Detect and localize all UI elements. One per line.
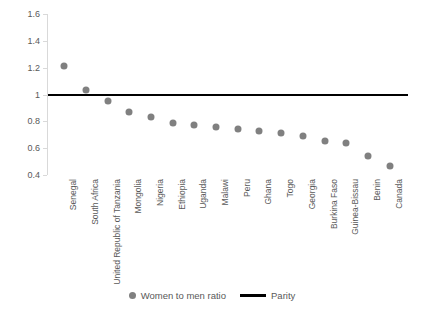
- data-point: [234, 125, 241, 132]
- data-point: [364, 153, 371, 160]
- data-point: [278, 129, 285, 136]
- legend-item-women-to-men-ratio: Women to men ratio: [129, 290, 226, 301]
- x-axis-category-label: Canada: [394, 179, 404, 209]
- y-axis-tick-mark: [43, 95, 47, 96]
- x-axis-category-label: Malawi: [220, 179, 230, 205]
- chart-container: 0.40.60.811.21.41.6 SenegalSouth AfricaU…: [0, 0, 424, 317]
- data-point: [126, 108, 133, 115]
- legend-label-women-to-men-ratio: Women to men ratio: [141, 290, 226, 301]
- x-axis-category-label: Ghana: [263, 179, 273, 205]
- y-axis-tick-mark: [43, 148, 47, 149]
- data-point: [213, 123, 220, 130]
- x-axis-category-label: Togo: [285, 179, 295, 197]
- y-axis-tick-label: 1.6: [0, 9, 40, 19]
- legend-item-parity: Parity: [240, 290, 295, 301]
- x-axis-category-label: South Africa: [90, 179, 100, 225]
- x-axis-category-label: Guinea-Bissau: [350, 179, 360, 235]
- data-point: [82, 87, 89, 94]
- data-point: [104, 98, 111, 105]
- data-point: [191, 122, 198, 129]
- y-axis-tick-mark: [43, 68, 47, 69]
- parity-reference-line: [48, 94, 408, 96]
- y-axis-tick-mark: [43, 121, 47, 122]
- x-axis-category-label: Ethiopia: [177, 179, 187, 210]
- chart-legend: Women to men ratio Parity: [0, 290, 424, 301]
- data-point: [386, 162, 393, 169]
- y-axis-tick-label: 0.8: [0, 116, 40, 126]
- y-axis-tick-label: 1.2: [0, 63, 40, 73]
- data-point: [61, 63, 68, 70]
- y-axis-tick-label: 1.4: [0, 36, 40, 46]
- data-point: [169, 119, 176, 126]
- x-axis-category-label: Senegal: [68, 179, 78, 210]
- x-axis-category-label: Georgia: [307, 179, 317, 209]
- legend-line-icon: [240, 294, 266, 297]
- plot-area: [48, 14, 408, 174]
- x-axis-category-label: Peru: [242, 179, 252, 197]
- x-axis-category-label: Benin: [372, 179, 382, 201]
- data-point: [343, 139, 350, 146]
- legend-dot-icon: [129, 292, 136, 299]
- data-point: [321, 137, 328, 144]
- x-axis-category-label: Mongolia: [133, 179, 143, 214]
- x-axis-category-label: Uganda: [198, 179, 208, 209]
- data-point: [299, 133, 306, 140]
- y-axis-tick-mark: [43, 14, 47, 15]
- x-axis-category-label: United Republic of Tanzania: [112, 179, 122, 285]
- x-axis-category-label: Nigeria: [155, 179, 165, 206]
- y-axis-tick-label: 0.6: [0, 143, 40, 153]
- legend-label-parity: Parity: [271, 290, 295, 301]
- data-point: [148, 114, 155, 121]
- y-axis-tick-label: 1: [0, 90, 40, 100]
- y-axis-tick-label: 0.4: [0, 170, 40, 180]
- data-point: [256, 127, 263, 134]
- y-axis-tick-mark: [43, 175, 47, 176]
- x-axis-category-label: Burkina Faso: [329, 179, 339, 229]
- y-axis-tick-mark: [43, 41, 47, 42]
